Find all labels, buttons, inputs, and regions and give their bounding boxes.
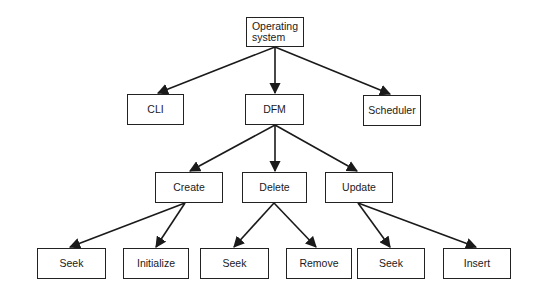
node-label: Seek	[223, 258, 247, 269]
node-update: Update	[325, 172, 393, 203]
node-label: CLI	[147, 104, 163, 115]
edge-dfm-create	[190, 125, 275, 171]
node-create-seek: Seek	[37, 248, 106, 279]
edge-create-initialize	[156, 203, 185, 247]
node-label: Delete	[259, 182, 289, 193]
node-create: Create	[155, 172, 223, 203]
node-label-line2: system	[252, 32, 298, 43]
node-update-seek: Seek	[357, 248, 425, 279]
node-label: Remove	[299, 258, 338, 269]
edge-dfm-update	[275, 125, 357, 171]
node-cli: CLI	[127, 94, 184, 125]
edge-update-insert	[358, 203, 476, 247]
node-label: Initialize	[137, 258, 175, 269]
node-label: Scheduler	[368, 105, 415, 116]
edge-create-seek	[70, 203, 185, 247]
node-label: Create	[173, 182, 205, 193]
node-label: Seek	[379, 258, 403, 269]
edge-root-scheduler	[275, 47, 390, 94]
node-operating-system: Operating system	[246, 17, 304, 47]
edge-root-cli	[158, 47, 275, 93]
node-remove: Remove	[286, 248, 352, 279]
edge-delete-remove	[274, 203, 316, 247]
node-delete-seek: Seek	[200, 248, 269, 279]
node-delete: Delete	[242, 172, 307, 203]
node-label: DFM	[263, 104, 286, 115]
node-label: Seek	[60, 258, 84, 269]
node-scheduler: Scheduler	[363, 95, 421, 126]
node-insert: Insert	[443, 248, 511, 279]
node-label: Update	[342, 182, 376, 193]
node-dfm: DFM	[245, 94, 304, 125]
node-initialize: Initialize	[123, 248, 189, 279]
node-label: Insert	[464, 258, 490, 269]
edge-delete-seek	[234, 203, 274, 247]
